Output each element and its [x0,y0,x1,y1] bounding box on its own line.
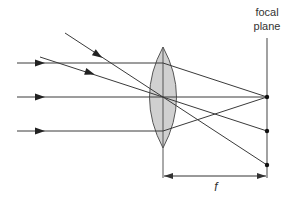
focal-point-mid [265,129,269,133]
arrow-icon-ray-shallow [84,68,96,78]
arrow-icon-ray-center [35,94,45,101]
focal-point-low [265,163,269,167]
arrow-icon-ray-bottom [35,128,45,135]
focal-point-axis [265,95,269,99]
focal-plane-label-line2: plane [254,20,281,32]
ray-parallel-bottom [17,97,267,131]
arrow-icon-ray-steep [92,49,104,60]
lens-focal-plane-diagram: focal plane f [0,0,292,198]
ray-parallel-top [17,63,267,97]
focal-plane-label-line1: focal [255,6,278,18]
focal-length-label: f [214,180,219,194]
arrow-icon-ray-top [35,60,45,67]
